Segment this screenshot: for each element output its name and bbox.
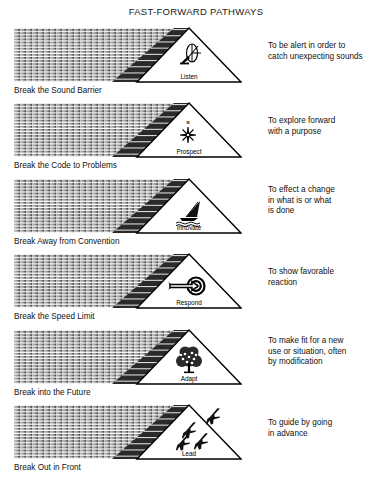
pathway-description: To guide by going in advance — [268, 418, 392, 439]
desc-line: with a purpose — [268, 127, 392, 138]
arrow-caption: Break the Speed Limit — [14, 312, 95, 321]
triangle-label: Lead — [182, 450, 197, 457]
desc-line: To effect a change — [268, 185, 392, 196]
triangle-label: Prospect — [176, 148, 201, 156]
pathway-description: To effect a change in what is or what is… — [268, 185, 392, 217]
arrow-caption: Break the Code to Problems — [14, 161, 117, 170]
pathway-description: To make fit for a new use or situation, … — [268, 336, 392, 368]
desc-line: reaction — [268, 278, 392, 289]
arrow-caption: Break Away from Convention — [14, 237, 119, 246]
arrow-caption: Break the Sound Barrier — [14, 86, 102, 95]
desc-line: in what is or what — [268, 196, 392, 207]
desc-line: catch unexpecting sounds — [268, 52, 392, 63]
pathway-description: To explore forward with a purpose — [268, 116, 392, 137]
pathway-graphic-prospect: N Prospect — [14, 101, 242, 159]
desc-line: To guide by going — [268, 418, 392, 429]
desc-line: in advance — [268, 429, 392, 440]
desc-line: To show favorable — [268, 267, 392, 278]
desc-line: by modification — [268, 357, 392, 368]
triangle-label: Respond — [176, 299, 202, 307]
desc-line: use or situation, often — [268, 347, 392, 358]
triangle-label: Adapt — [181, 375, 198, 383]
pathway-graphic-respond: Respond — [14, 252, 242, 310]
pathway-graphic-innovate: Innovate — [14, 177, 242, 235]
arrow-caption: Break into the Future — [14, 388, 90, 397]
desc-line: is done — [268, 206, 392, 217]
desc-line: To explore forward — [268, 116, 392, 127]
pathway-graphic-listen: Listen — [14, 26, 242, 84]
triangle-label: Innovate — [177, 224, 202, 231]
compass-north-label: N — [186, 120, 189, 125]
desc-line: To be alert in order to — [268, 41, 392, 52]
pathway-graphic-adapt: Adapt — [14, 328, 242, 386]
arrow-caption: Break Out in Front — [14, 463, 81, 472]
pathway-graphic-lead: Lead — [14, 403, 242, 461]
page-title: FAST-FORWARD PATHWAYS — [0, 6, 392, 17]
triangle-label: Listen — [180, 73, 197, 80]
desc-line: To make fit for a new — [268, 336, 392, 347]
pathway-description: To show favorable reaction — [268, 267, 392, 288]
pathway-description: To be alert in order to catch unexpectin… — [268, 41, 392, 62]
